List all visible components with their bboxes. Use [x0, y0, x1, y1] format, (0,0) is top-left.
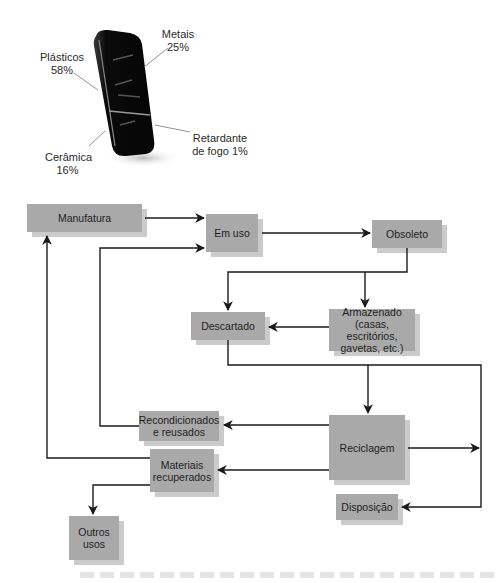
- node-descartado: Descartado: [191, 312, 265, 340]
- node-recondicionados: Recondicionados e reusados: [139, 411, 219, 441]
- node-disposicao: Disposição: [336, 494, 398, 520]
- label-metais: Metais 25%: [158, 28, 198, 54]
- phone-icon: [94, 30, 155, 156]
- node-outros-usos: Outros usos: [69, 516, 119, 560]
- label-retardante: Retardante de fogo 1%: [190, 132, 250, 158]
- node-em-uso: Em uso: [206, 214, 258, 252]
- node-materiais-recuperados: Materiais recuperados: [150, 449, 214, 492]
- label-ceramica: Cerâmica 16%: [45, 151, 90, 177]
- node-label: Manufatura: [58, 212, 111, 224]
- node-label: Materiais recuperados: [153, 459, 211, 483]
- node-label: Obsoleto: [386, 228, 428, 240]
- figure-caption-blurred: [80, 572, 500, 578]
- node-label: Outros usos: [78, 526, 110, 550]
- node-label: Descartado: [201, 320, 255, 332]
- node-label: Recondicionados e reusados: [139, 414, 220, 438]
- node-armazenado: Armazenado (casas, escritórios, gavetas,…: [329, 309, 415, 351]
- node-label: Disposição: [341, 501, 392, 513]
- arrow-recondicionados-em-uso: [100, 248, 204, 426]
- node-manufatura: Manufatura: [27, 204, 142, 232]
- arrow-materiais-outros-usos: [93, 485, 150, 514]
- node-reciclagem: Reciclagem: [329, 415, 405, 480]
- arrow-materiais-manufatura: [47, 236, 150, 458]
- arrow-obsoleto-descartado: [228, 248, 407, 310]
- node-label: Armazenado (casas, escritórios, gavetas,…: [329, 306, 415, 354]
- node-label: Reciclagem: [340, 442, 395, 454]
- node-obsoleto: Obsoleto: [372, 220, 442, 248]
- label-plasticos: Plásticos 58%: [40, 51, 84, 77]
- node-label: Em uso: [214, 227, 250, 239]
